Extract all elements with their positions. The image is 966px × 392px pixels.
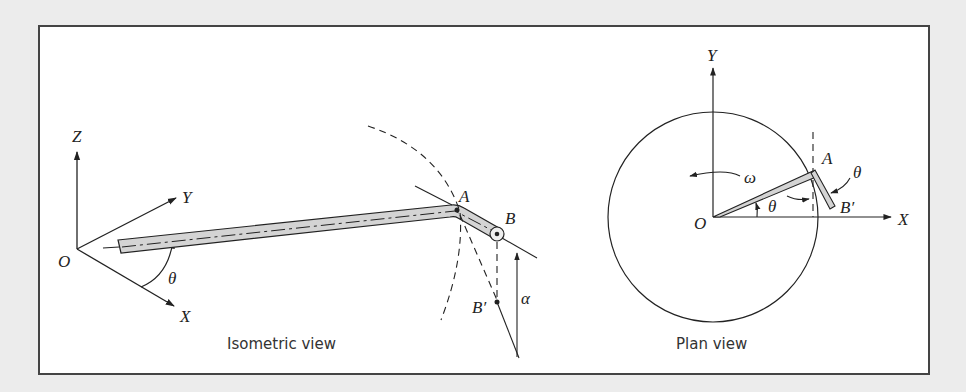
origin-label: O xyxy=(58,252,70,271)
plan-y-axis-label: Y xyxy=(707,46,718,65)
z-axis-label: Z xyxy=(72,127,82,146)
plan-theta-arm-arrow xyxy=(831,178,850,193)
point-b-dot xyxy=(495,232,500,237)
omega-arrow xyxy=(690,172,740,176)
theta-label: θ xyxy=(168,269,176,288)
isometric-caption: Isometric view xyxy=(227,335,336,353)
plan-caption: Plan view xyxy=(676,335,747,353)
plan-point-a-label: A xyxy=(821,149,833,168)
isometric-view: Z Y X O θ A B B′ α Isometric view xyxy=(58,126,537,358)
plan-rod-oa xyxy=(713,171,816,217)
plan-point-b-prime-label: B′ xyxy=(840,198,854,217)
rod-long xyxy=(118,205,499,253)
x-axis-label: X xyxy=(179,307,191,326)
plan-view: Y X O ω θ θ A B′ Plan view xyxy=(608,46,909,353)
point-b-label: B xyxy=(505,209,516,228)
plan-x-axis-label: X xyxy=(897,210,909,229)
omega-label: ω xyxy=(744,168,756,187)
plan-origin-label: O xyxy=(694,214,706,233)
tangent-line-a xyxy=(415,186,452,205)
point-a-dot xyxy=(455,208,460,213)
line-bprime-down xyxy=(497,302,519,358)
rod-start-line xyxy=(103,247,119,248)
plan-theta-arm-label: θ xyxy=(853,163,861,182)
plan-theta-base-label: θ xyxy=(768,197,776,216)
point-b-prime-label: B′ xyxy=(472,298,486,317)
point-a-label: A xyxy=(458,187,470,206)
plan-theta-a-arc xyxy=(787,196,809,200)
y-axis-label: Y xyxy=(182,188,193,207)
tangent-line-b xyxy=(502,238,537,258)
diagram-canvas: Z Y X O θ A B B′ α Isometric view xyxy=(0,0,966,392)
x-axis xyxy=(77,249,174,306)
plan-theta-base-arc xyxy=(756,203,757,217)
alpha-label: α xyxy=(521,289,531,308)
